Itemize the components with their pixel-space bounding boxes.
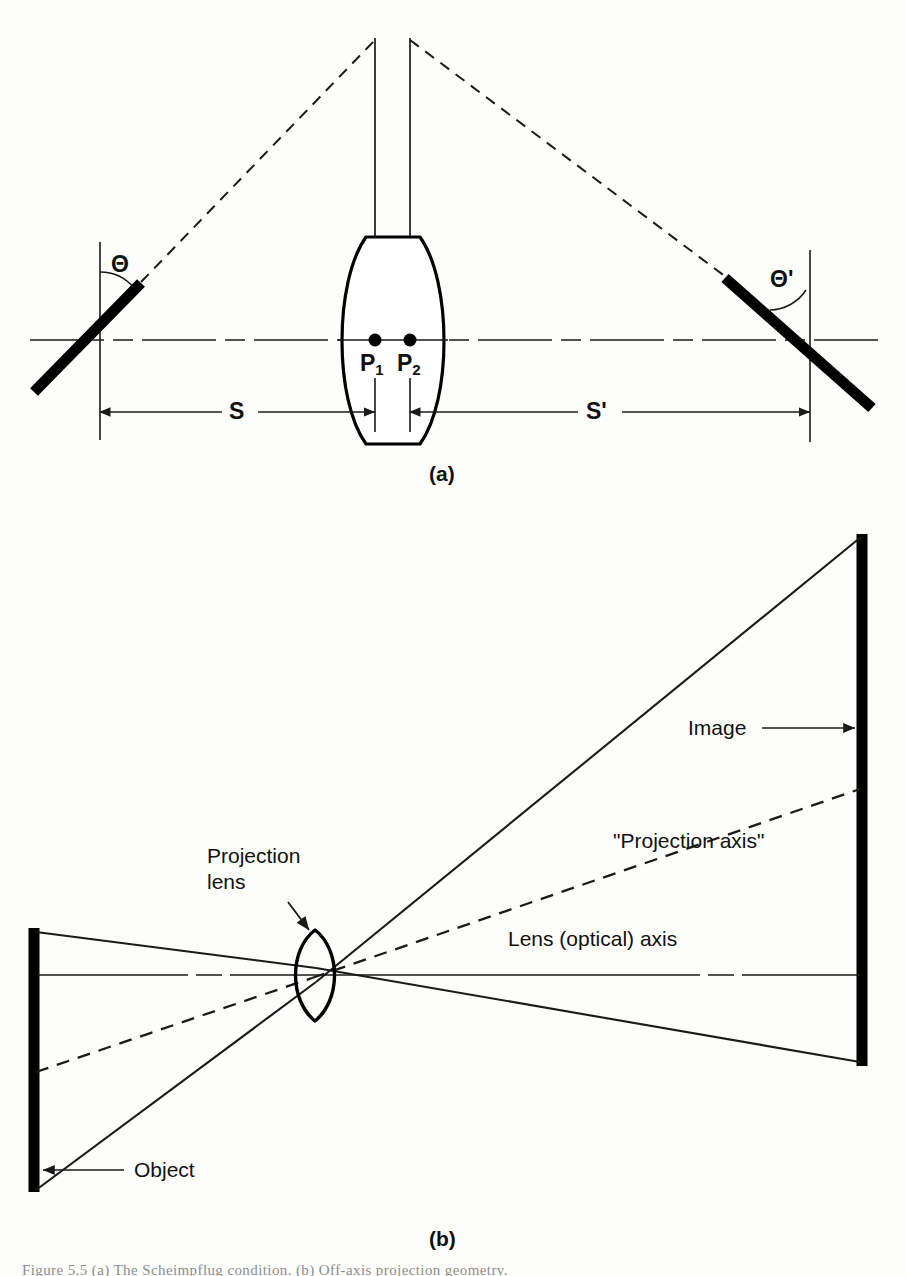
figure-bottom-caption: Figure 5.5 (a) The Scheimpflug condition…	[22, 1262, 508, 1276]
projection-lens-leader	[288, 902, 309, 930]
optics-figure-svg	[0, 0, 906, 1276]
image-label: Image	[688, 717, 746, 738]
principal-point-1-subscript: 1	[375, 361, 383, 378]
principal-point-2-letter: P	[397, 350, 412, 376]
projection-lens-label-line2: lens	[207, 871, 300, 892]
marginal-ray-top-to-lens	[36, 932, 316, 968]
projection-lens-b	[296, 930, 335, 1021]
image-plane-a	[725, 278, 872, 408]
projection-axis-left	[36, 978, 312, 1072]
panel-a-caption: (a)	[429, 463, 455, 484]
chief-ray-upper-right	[410, 40, 726, 277]
marginal-ray-lens-to-image-bottom	[316, 968, 860, 1062]
principal-point-1-label: P1	[360, 352, 384, 377]
principal-point-1-letter: P	[360, 350, 375, 376]
angle-theta-label: Θ	[111, 253, 129, 276]
angle-arc-theta-prime	[770, 290, 806, 310]
chief-ray-upper-left	[141, 40, 375, 282]
projection-lens-label: Projection lens	[207, 845, 300, 892]
object-plane-a	[34, 283, 141, 392]
marginal-ray-lens-to-image-top	[316, 537, 861, 982]
lens-optical-axis-label: Lens (optical) axis	[508, 928, 677, 949]
projection-lens-label-line1: Projection	[207, 845, 300, 866]
angle-theta-prime-label: Θ'	[770, 268, 793, 291]
projection-axis-label: "Projection axis"	[613, 830, 764, 851]
figure-root: Θ Θ' P1 P2 S S' (a) Image "Projection ax…	[0, 0, 906, 1276]
panel-b-caption: (b)	[429, 1228, 456, 1249]
principal-point-1-dot	[369, 334, 382, 347]
panel-b-group	[34, 534, 862, 1192]
object-label: Object	[134, 1159, 195, 1180]
principal-point-2-subscript: 2	[412, 361, 420, 378]
panel-a-group	[30, 38, 878, 444]
principal-point-2-label: P2	[397, 352, 421, 377]
image-distance-label: S'	[586, 400, 607, 423]
principal-point-2-dot	[404, 334, 417, 347]
object-distance-label: S	[229, 400, 244, 423]
